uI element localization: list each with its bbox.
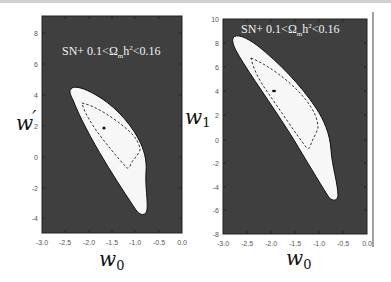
svg-text:-0.5: -0.5 — [153, 239, 165, 246]
svg-text:-8: -8 — [213, 231, 219, 238]
svg-text:0.0: 0.0 — [362, 240, 372, 247]
svg-text:-2: -2 — [213, 160, 219, 167]
svg-text:-4: -4 — [213, 184, 219, 191]
svg-text:0.0: 0.0 — [177, 239, 187, 246]
left-panel: 8 6 4 2 0 -2 -4 -3.0 -2.5 -2.0 -1.5 -1.0… — [16, 16, 187, 273]
left-y-axis-title: w′ — [16, 107, 36, 135]
right-y-axis-title: w1 — [185, 105, 210, 130]
left-best-fit-point — [102, 126, 105, 129]
svg-text:-2.0: -2.0 — [83, 239, 95, 246]
svg-text:-2.0: -2.0 — [265, 240, 277, 247]
svg-text:6: 6 — [215, 64, 219, 71]
svg-text:4: 4 — [215, 88, 219, 95]
svg-text:6: 6 — [34, 61, 38, 68]
right-y-tick-labels: 10 8 6 4 2 0 -2 -4 -6 -8 — [211, 16, 219, 238]
left-x-tick-labels: -3.0 -2.5 -2.0 -1.5 -1.0 -0.5 0.0 — [36, 239, 187, 246]
svg-text:-6: -6 — [213, 207, 219, 214]
right-annotation: SN+ 0.1<Ωmh2<0.16 — [241, 22, 340, 38]
right-x-axis-title: w0 — [286, 246, 311, 272]
svg-text:-1.5: -1.5 — [106, 239, 118, 246]
svg-text:-1.0: -1.0 — [129, 239, 141, 246]
svg-text:-3.0: -3.0 — [217, 240, 229, 247]
svg-text:-1.0: -1.0 — [313, 240, 325, 247]
svg-text:0: 0 — [215, 137, 219, 144]
svg-text:-4: -4 — [32, 215, 38, 222]
left-x-axis-title: w0 — [99, 247, 124, 273]
figure: 8 6 4 2 0 -2 -4 -3.0 -2.5 -2.0 -1.5 -1.0… — [0, 0, 391, 282]
svg-text:-0.5: -0.5 — [337, 240, 349, 247]
right-panel: 10 8 6 4 2 0 -2 -4 -6 -8 -3.0 -2.5 -2.0 … — [185, 16, 372, 272]
svg-text:-2.5: -2.5 — [59, 239, 71, 246]
svg-text:10: 10 — [211, 16, 219, 23]
svg-text:-3.0: -3.0 — [36, 239, 48, 246]
left-annotation: SN+ 0.1<Ωmh2<0.16 — [62, 44, 161, 60]
svg-text:0: 0 — [34, 154, 38, 161]
svg-text:8: 8 — [34, 30, 38, 37]
svg-text:-2.5: -2.5 — [241, 240, 253, 247]
svg-text:2: 2 — [215, 112, 219, 119]
svg-text:8: 8 — [215, 40, 219, 47]
svg-text:-2: -2 — [32, 185, 38, 192]
right-best-fit-point — [272, 90, 276, 93]
svg-text:4: 4 — [34, 92, 38, 99]
